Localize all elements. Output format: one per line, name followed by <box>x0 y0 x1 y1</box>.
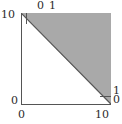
x-axis-max-label: 10 <box>95 109 109 120</box>
tick-mark-bottom-right <box>100 96 111 97</box>
y-axis-max-label: 10 <box>1 9 15 20</box>
y-axis-min-label: 0 <box>11 95 18 106</box>
right-label-0: 0 <box>113 94 120 105</box>
figure-container: 0 1 10 0 0 10 1 0 <box>0 0 122 124</box>
x-axis-min-label: 0 <box>18 109 25 120</box>
y-axis-line <box>21 13 22 105</box>
diagonal-boundary-line <box>21 13 111 105</box>
top-label-1: 1 <box>49 0 56 11</box>
top-label-0: 0 <box>37 0 44 11</box>
x-axis-line <box>21 104 111 105</box>
plot-area <box>21 13 111 105</box>
tick-mark-top-left <box>26 13 27 24</box>
